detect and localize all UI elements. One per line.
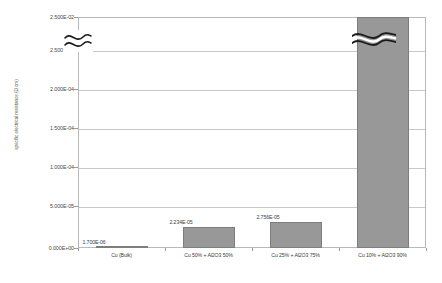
x-axis: Cu (Bulk) Cu 50% + Al2O3 50% Cu 25% + Al…: [78, 252, 426, 270]
bar-value-label-1: 2.234E-05: [145, 219, 217, 225]
y-tick-label-2: 2.000E-04: [50, 86, 74, 92]
bar-break-icon: [352, 28, 396, 50]
y-tick-label-3: 1.500E-04: [50, 125, 74, 131]
bar-chart: 2.500E-02 2.500E-04 2.000E-04 1.500E-04 …: [0, 0, 442, 283]
x-tick-mark-0: [78, 248, 79, 251]
bar-cu-bulk[interactable]: [96, 246, 148, 248]
y-tick-label-6: 0.000E+00: [49, 245, 74, 251]
x-tick-label-3: Cu 10% + Al2O3 90%: [347, 252, 418, 258]
x-tick-label-1: Cu 50% + Al2O3 50%: [173, 252, 244, 258]
x-tick-label-2: Cu 25% + Al2O3 75%: [260, 252, 331, 258]
y-tick-label-4: 1.000E-04: [50, 164, 74, 170]
y-tick-label-0: 2.500E-02: [50, 14, 74, 20]
bar-cu-10[interactable]: [357, 17, 409, 248]
axis-break-icon: [63, 30, 93, 52]
y-tick-label-5: 5.000E-05: [50, 203, 74, 209]
y-axis-title: specific electrical resistance (Ω cm): [14, 55, 19, 175]
x-tick-mark-1: [165, 248, 166, 251]
x-tick-mark-4: [426, 248, 427, 251]
bar-value-label-2: 2.756E-05: [232, 214, 304, 220]
x-tick-mark-3: [339, 248, 340, 251]
x-tick-label-0: Cu (Bulk): [86, 252, 157, 258]
bar-cu-50[interactable]: [183, 227, 235, 248]
bar-cu-25[interactable]: [270, 222, 322, 248]
bar-value-label-0: 1.700E-06: [58, 239, 130, 245]
x-tick-mark-2: [252, 248, 253, 251]
